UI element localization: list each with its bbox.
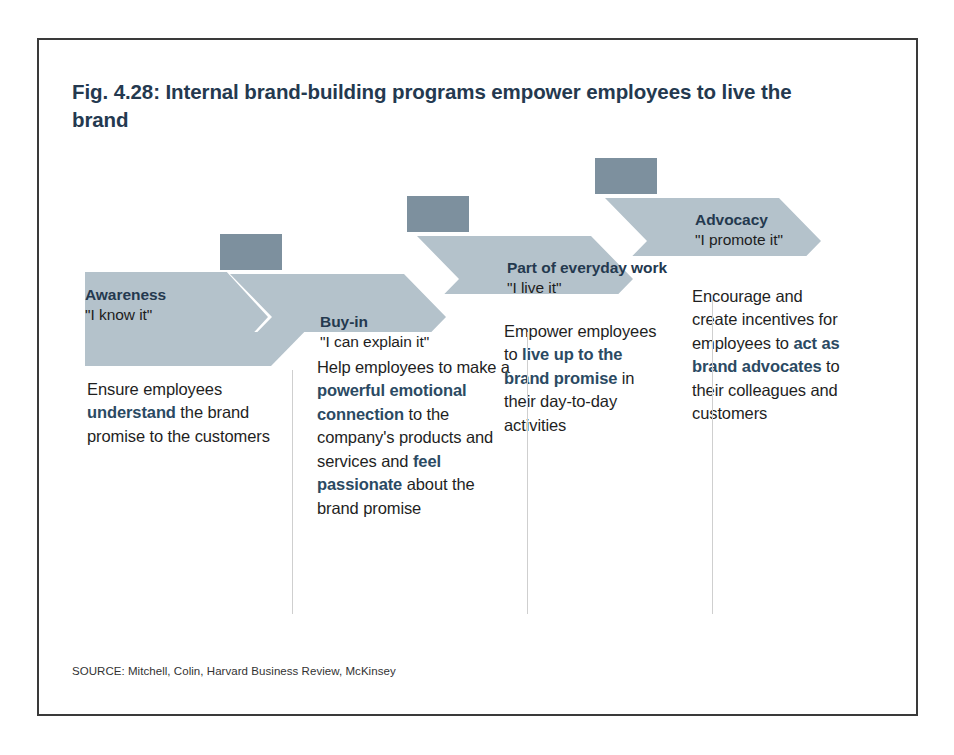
figure-container: Fig. 4.28: Internal brand-building progr… bbox=[37, 38, 918, 716]
stage-quote-awareness: "I know it" bbox=[85, 305, 265, 325]
stage-title-awareness: Awareness bbox=[85, 285, 265, 305]
stage-title-part-of-everyday-work: Part of everyday work bbox=[507, 258, 687, 278]
column-divider-3 bbox=[712, 295, 713, 614]
stage-body-part-of-everyday-work: Empower employees to live up to the bran… bbox=[504, 320, 669, 437]
stage-quote-part-of-everyday-work: "I live it" bbox=[507, 278, 687, 298]
stage-body-advocacy: Encourage and create incentives for empl… bbox=[692, 285, 852, 426]
arrow-label-buy-in: Buy-in "I can explain it" bbox=[320, 312, 500, 352]
arrow-label-advocacy: Advocacy "I promote it" bbox=[695, 210, 875, 250]
stage-quote-advocacy: "I promote it" bbox=[695, 230, 875, 250]
source-note: SOURCE: Mitchell, Colin, Harvard Busines… bbox=[72, 665, 396, 677]
stage-title-advocacy: Advocacy bbox=[695, 210, 875, 230]
arrow-label-part-of-everyday-work: Part of everyday work "I live it" bbox=[507, 258, 687, 298]
column-divider-2 bbox=[527, 332, 528, 614]
arrow-label-awareness: Awareness "I know it" bbox=[85, 285, 265, 325]
stage-body-awareness: Ensure employees understand the brand pr… bbox=[87, 378, 299, 448]
stage-body-buy-in: Help employees to make a powerful emotio… bbox=[317, 356, 517, 520]
stage-title-buy-in: Buy-in bbox=[320, 312, 500, 332]
stage-quote-buy-in: "I can explain it" bbox=[320, 332, 500, 352]
staircase-diagram: Awareness "I know it" Ensure employees u… bbox=[39, 40, 920, 640]
column-divider-1 bbox=[292, 370, 293, 614]
